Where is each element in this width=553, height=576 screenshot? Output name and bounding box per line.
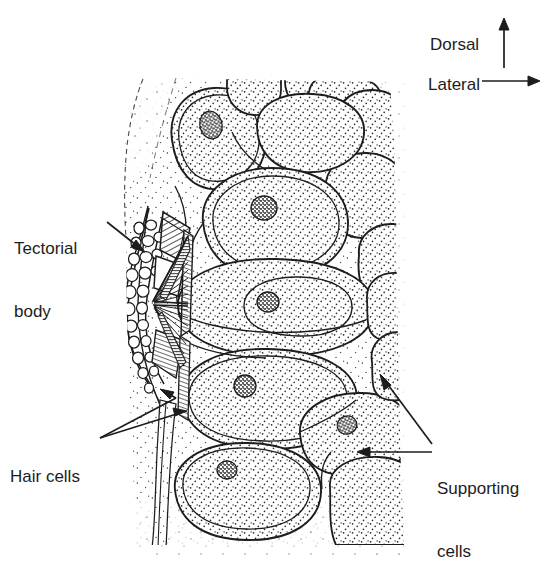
supporting-cells-label-line1: Supporting [437, 478, 519, 499]
nucleus [257, 292, 279, 312]
tectorial-body-label-line2: body [14, 301, 77, 322]
hair-cells-label-line1: Hair cells [10, 466, 80, 487]
arrow-right-icon [482, 76, 540, 86]
nucleus [251, 196, 277, 220]
nucleus [234, 375, 256, 397]
supporting-cell [367, 273, 411, 340]
supporting-cells-label: Supporting cells [437, 436, 519, 576]
supporting-cell [257, 94, 364, 172]
supporting-cell [178, 259, 374, 356]
lateral-label: Lateral [428, 74, 480, 95]
dorsal-label: Dorsal [430, 34, 479, 55]
supporting-cells-label-line2: cells [437, 541, 519, 562]
arrow-up-icon [499, 18, 509, 68]
supporting-cells [171, 78, 415, 545]
supporting-cell [372, 332, 415, 400]
hair-cells-label: Hair cells [10, 424, 80, 508]
supporting-cell [175, 443, 321, 540]
nucleus [217, 461, 237, 479]
orientation-key [482, 18, 540, 86]
tectorial-body-label: Tectorial body [14, 196, 77, 343]
tectorial-body-label-line1: Tectorial [14, 238, 77, 259]
